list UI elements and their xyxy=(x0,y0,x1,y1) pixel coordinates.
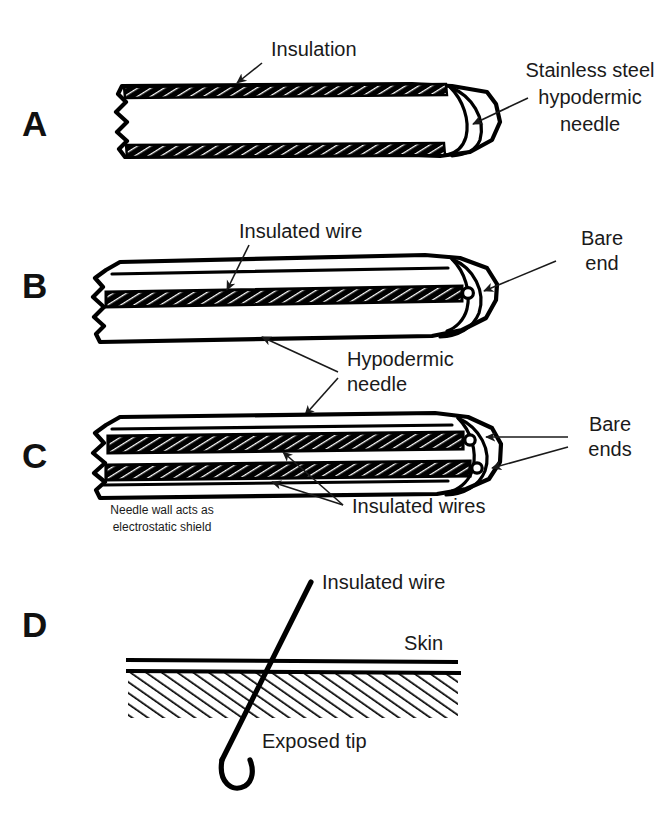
panel-b-letter: B xyxy=(22,266,47,305)
insulation-band-top-a xyxy=(124,84,447,98)
label-hypodermic-c: Hypodermic xyxy=(347,348,454,370)
label-shield-line1: Needle wall acts as xyxy=(110,503,213,517)
leader-hypodermic-down xyxy=(305,378,338,415)
label-skin-d: Skin xyxy=(404,632,443,654)
label-insulated-wires-c: Insulated wires xyxy=(352,495,485,517)
figure-hypodermic-needle-electrodes: A Insulation Stainless steel hypodermic … xyxy=(0,0,657,815)
label-group-hypodermic-needle: Hypodermic needle xyxy=(262,337,454,415)
label-needle-c: needle xyxy=(347,373,407,395)
panel-c: C Bare ends Insulated wires xyxy=(22,413,632,534)
label-exposed-tip-d: Exposed tip xyxy=(262,730,367,752)
bare-end-circle-lower-c xyxy=(472,463,482,473)
label-end-b: end xyxy=(585,252,618,274)
insulated-wire-upper-c xyxy=(108,432,463,453)
leader-bare-end-b xyxy=(484,261,556,291)
panel-d-letter: D xyxy=(22,605,47,644)
skin-surface-line-upper xyxy=(128,660,456,662)
bare-end-circle-upper-c xyxy=(465,435,475,445)
insulated-wire-lower-c xyxy=(106,461,470,480)
leader-insulation xyxy=(237,63,262,83)
label-insulation: Insulation xyxy=(271,38,357,60)
panel-b: B Insulated wire Bare end xyxy=(22,220,623,342)
panel-a: A Insulation Stainless steel hypodermic … xyxy=(22,38,654,157)
label-needle: needle xyxy=(560,113,620,135)
panel-c-letter: C xyxy=(22,436,47,475)
panel-a-letter: A xyxy=(22,104,47,143)
skin-hatch-region xyxy=(128,672,458,718)
label-insulated-wire-b: Insulated wire xyxy=(239,220,362,242)
panel-d: D Insulated wire Skin Exposed tip xyxy=(22,571,459,788)
bare-end-circle-b xyxy=(463,288,474,299)
skin-surface-line-lower xyxy=(128,671,459,673)
label-hypodermic: hypodermic xyxy=(538,86,641,108)
exposed-tip-hook-d xyxy=(221,760,252,788)
leader-hypodermic-up xyxy=(262,337,338,372)
leader-bare-ends-lower-c xyxy=(492,447,568,468)
label-bare-b: Bare xyxy=(581,227,623,249)
label-bare-ends-2-c: ends xyxy=(588,438,631,460)
label-stainless-steel: Stainless steel xyxy=(526,59,655,81)
label-bare-ends-1-c: Bare xyxy=(589,413,631,435)
insulation-band-bottom-a xyxy=(126,143,445,157)
label-shield-line2: electrostatic shield xyxy=(113,520,212,534)
label-insulated-wire-d: Insulated wire xyxy=(322,571,445,593)
